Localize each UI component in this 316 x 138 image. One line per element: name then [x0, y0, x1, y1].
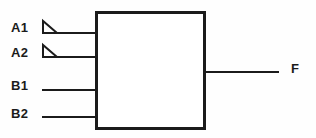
input-marker-triangle-a1 [43, 21, 57, 33]
input-label-a1: A1 [11, 21, 28, 34]
gate-body-rect [97, 13, 205, 129]
logic-gate-diagram: A1 A2 B1 B2 F [0, 0, 316, 138]
input-label-a2: A2 [11, 46, 28, 59]
input-label-b2: B2 [11, 107, 28, 120]
input-label-b1: B1 [11, 79, 28, 92]
input-marker-triangle-a2 [43, 45, 57, 57]
output-label-f: F [291, 62, 299, 75]
diagram-canvas [0, 0, 316, 138]
